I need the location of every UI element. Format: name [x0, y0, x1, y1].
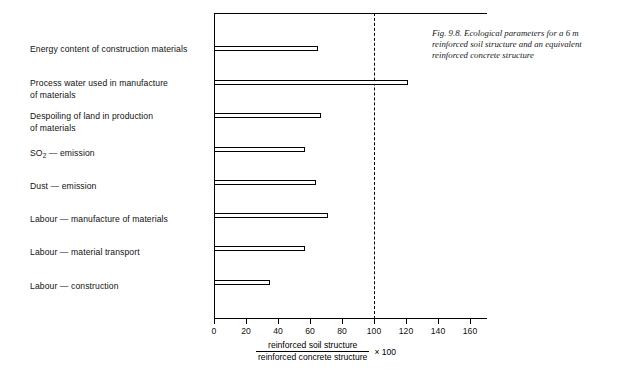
x-axis-tick-label: 100 [367, 326, 381, 336]
x-axis-caption-numerator: reinforced soil structure [266, 340, 359, 351]
category-label: Dust — emission [30, 181, 210, 193]
x-axis-tick-label: 60 [305, 326, 315, 336]
x-axis-tick-label: 0 [212, 326, 217, 336]
x-axis-caption-fraction: reinforced soil structure reinforced con… [256, 340, 369, 362]
x-axis-tick [438, 319, 439, 324]
category-label: Process water used in manufacture of mat… [30, 78, 210, 101]
bar [214, 80, 408, 85]
bar [214, 280, 270, 285]
x-axis-caption: reinforced soil structure reinforced con… [214, 340, 514, 362]
plot-frame-left [214, 13, 215, 318]
x-axis-tick [470, 319, 471, 324]
category-label: Labour — construction [30, 281, 210, 293]
x-axis-tick [310, 319, 311, 324]
figure-container: Energy content of construction materials… [0, 0, 622, 379]
bar [214, 46, 318, 51]
x-axis-tick [342, 319, 343, 324]
x-axis-tick-label: 160 [463, 326, 477, 336]
figure-caption: Fig. 9.8. Ecological parameters for a 6 … [432, 28, 612, 62]
bar [214, 246, 305, 251]
x-axis-tick [246, 319, 247, 324]
x-axis-tick [406, 319, 407, 324]
x-axis-tick-label: 20 [241, 326, 251, 336]
category-label: Despoiling of land in production of mate… [30, 111, 210, 134]
x-axis-tick-label: 80 [337, 326, 347, 336]
x-axis-caption-multiplier: × 100 [374, 346, 396, 357]
bar [214, 180, 316, 185]
x-axis-tick [374, 319, 375, 324]
x-axis-tick-label: 120 [399, 326, 413, 336]
category-label: SO2 — emission [30, 148, 210, 160]
x-axis-line [214, 318, 487, 319]
x-axis-tick-label: 40 [273, 326, 283, 336]
x-axis-tick [278, 319, 279, 324]
reference-line-100 [374, 13, 375, 319]
category-label: Energy content of construction materials [30, 44, 210, 56]
category-label: Labour — material transport [30, 247, 210, 259]
plot-frame-top [214, 13, 487, 14]
category-label: Labour — manufacture of materials [30, 214, 210, 226]
subscript-2: 2 [43, 152, 47, 159]
bar [214, 147, 305, 152]
bar [214, 113, 321, 118]
x-axis-tick-label: 140 [431, 326, 445, 336]
bar [214, 213, 328, 218]
x-axis-tick [214, 319, 215, 324]
x-axis-caption-denominator: reinforced concrete structure [256, 351, 369, 363]
category-label-column: Energy content of construction materials… [0, 0, 210, 379]
